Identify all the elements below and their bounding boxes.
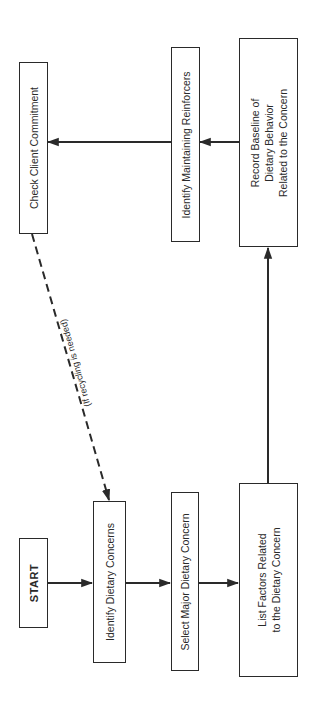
- node-list-factors-label: List Factors Related to the Dietary Conc…: [255, 527, 283, 632]
- node-identify-dietary-concerns: Identify Dietary Concerns: [93, 501, 126, 663]
- node-identify-reinforcers-label: Identify Maintaining Reinforcers: [179, 71, 193, 218]
- node-select-major-concern: Select Major Dietary Concern: [171, 492, 199, 671]
- node-check-commitment-label: Check Client Commitment: [27, 87, 41, 209]
- node-select-major-concern-label: Select Major Dietary Concern: [178, 513, 192, 650]
- node-identify-reinforcers: Identify Maintaining Reinforcers: [171, 47, 200, 242]
- node-identify-dietary-concerns-label: Identify Dietary Concerns: [103, 523, 117, 641]
- node-start-label: START: [27, 564, 41, 602]
- node-list-factors: List Factors Related to the Dietary Conc…: [239, 483, 298, 677]
- node-record-baseline: Record Baseline of Dietary Behavior Rela…: [239, 38, 298, 247]
- node-start: START: [19, 538, 48, 628]
- node-check-commitment: Check Client Commitment: [19, 62, 48, 234]
- flowchart-diagram: START Identify Dietary Concerns Select M…: [0, 0, 313, 717]
- node-record-baseline-label: Record Baseline of Dietary Behavior Rela…: [248, 89, 290, 197]
